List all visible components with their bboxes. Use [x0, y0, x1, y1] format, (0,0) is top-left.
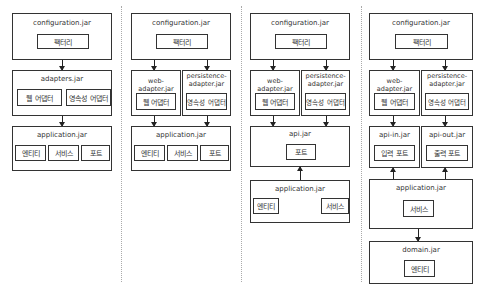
- service-box: 서비스: [403, 200, 434, 217]
- persistence-adapter-jar: persistence- adapter.jar 영속성 어댑터: [421, 70, 473, 116]
- module-title: domain.jar: [370, 246, 472, 254]
- web-adapter-box: 웹 어댑터: [136, 93, 176, 110]
- arrow-down-icon: [393, 60, 394, 70]
- factory-box: 팩터리: [37, 34, 89, 49]
- factory-box: 팩터리: [156, 34, 208, 49]
- arrow-down-icon: [445, 60, 446, 70]
- entity-box: 엔티티: [404, 260, 435, 277]
- application-jar: application.jar 엔티티 서비스 포트: [12, 126, 112, 171]
- module-title: configuration.jar: [370, 19, 472, 27]
- web-adapter-box: 웹 어댑터: [255, 93, 295, 110]
- entity-box: 엔티티: [15, 145, 46, 161]
- port-box: 포트: [200, 145, 229, 161]
- module-title: application.jar: [132, 131, 230, 139]
- port-box: 포트: [81, 145, 110, 161]
- module-title: persistence- adapter.jar: [422, 72, 472, 88]
- column-separator: [361, 6, 362, 282]
- module-title: application.jar: [370, 184, 472, 192]
- arrow-up-icon: [445, 168, 446, 179]
- module-title: application.jar: [251, 185, 349, 193]
- persistence-adapter-box: 영속성 어댑터: [425, 93, 469, 110]
- service-box: 서비스: [167, 145, 198, 161]
- module-title: web-adapter.jar: [370, 77, 419, 93]
- web-adapter-jar: web-adapter.jar 웹 어댑터: [369, 70, 420, 116]
- arrow-down-icon: [326, 60, 327, 70]
- persistence-adapter-box: 영속성 어댑터: [66, 89, 111, 106]
- api-jar: api.jar 포트: [250, 126, 350, 167]
- column-separator: [241, 6, 242, 282]
- factory-box: 팩터리: [275, 34, 327, 49]
- arrow-down-icon: [154, 60, 155, 70]
- port-box: 포트: [286, 144, 316, 160]
- input-port-box: 입력 포트: [374, 145, 415, 161]
- arrow-down-icon: [393, 116, 394, 126]
- configuration-jar: configuration.jar 팩터리: [12, 13, 112, 60]
- arrow-down-icon: [273, 60, 274, 70]
- arrow-down-icon: [273, 116, 274, 126]
- api-out-jar: api-out.jar 출력 포트: [421, 126, 473, 168]
- module-title: web-adapter.jar: [132, 77, 180, 93]
- module-title: api.jar: [251, 130, 349, 138]
- service-box: 서비스: [48, 145, 79, 161]
- application-jar: application.jar 엔티티 서비스: [250, 180, 350, 223]
- persistence-adapter-jar: persistence- adapter.jar 영속성 어댑터: [301, 70, 350, 116]
- arrow-down-icon: [62, 116, 63, 126]
- entity-box: 엔티티: [253, 198, 279, 214]
- entity-box: 엔티티: [134, 145, 165, 161]
- output-port-box: 출력 포트: [426, 145, 468, 161]
- module-title: application.jar: [13, 131, 111, 139]
- adapters-jar: adapters.jar 웹 어댑터 영속성 어댑터: [12, 70, 112, 116]
- module-title: persistence- adapter.jar: [302, 72, 349, 88]
- module-title: configuration.jar: [251, 19, 349, 27]
- arrow-down-icon: [418, 229, 419, 241]
- module-title: web-adapter.jar: [251, 77, 299, 93]
- web-adapter-box: 웹 어댑터: [374, 93, 415, 110]
- module-title: api-out.jar: [422, 131, 472, 139]
- application-jar: application.jar 엔티티 서비스 포트: [131, 126, 231, 171]
- column-separator: [121, 6, 122, 282]
- module-title: api-in.jar: [370, 131, 419, 139]
- web-adapter-jar: web-adapter.jar 웹 어댑터: [250, 70, 300, 116]
- arrow-up-icon: [393, 168, 394, 179]
- arrow-down-icon: [207, 116, 208, 126]
- persistence-adapter-jar: persistence- adapter.jar 영속성 어댑터: [182, 70, 231, 116]
- persistence-adapter-box: 영속성 어댑터: [186, 93, 227, 110]
- configuration-jar: configuration.jar 팩터리: [250, 13, 350, 60]
- persistence-adapter-box: 영속성 어댑터: [305, 93, 346, 110]
- module-title: persistence- adapter.jar: [183, 72, 230, 88]
- factory-box: 팩터리: [395, 34, 448, 49]
- configuration-jar: configuration.jar 팩터리: [131, 13, 231, 60]
- arrow-down-icon: [62, 60, 63, 70]
- arrow-down-icon: [326, 116, 327, 126]
- module-title: configuration.jar: [13, 19, 111, 27]
- application-jar: application.jar 서비스: [369, 179, 473, 229]
- service-box: 서비스: [321, 198, 349, 214]
- module-title: adapters.jar: [13, 75, 111, 83]
- arrow-down-icon: [207, 60, 208, 70]
- arrow-down-icon: [445, 116, 446, 126]
- api-in-jar: api-in.jar 입력 포트: [369, 126, 420, 168]
- domain-jar: domain.jar 엔티티: [369, 241, 473, 284]
- arrow-up-icon: [300, 167, 301, 180]
- module-title: configuration.jar: [132, 19, 230, 27]
- web-adapter-jar: web-adapter.jar 웹 어댑터: [131, 70, 181, 116]
- arrow-down-icon: [154, 116, 155, 126]
- configuration-jar: configuration.jar 팩터리: [369, 13, 473, 60]
- web-adapter-box: 웹 어댑터: [17, 89, 62, 106]
